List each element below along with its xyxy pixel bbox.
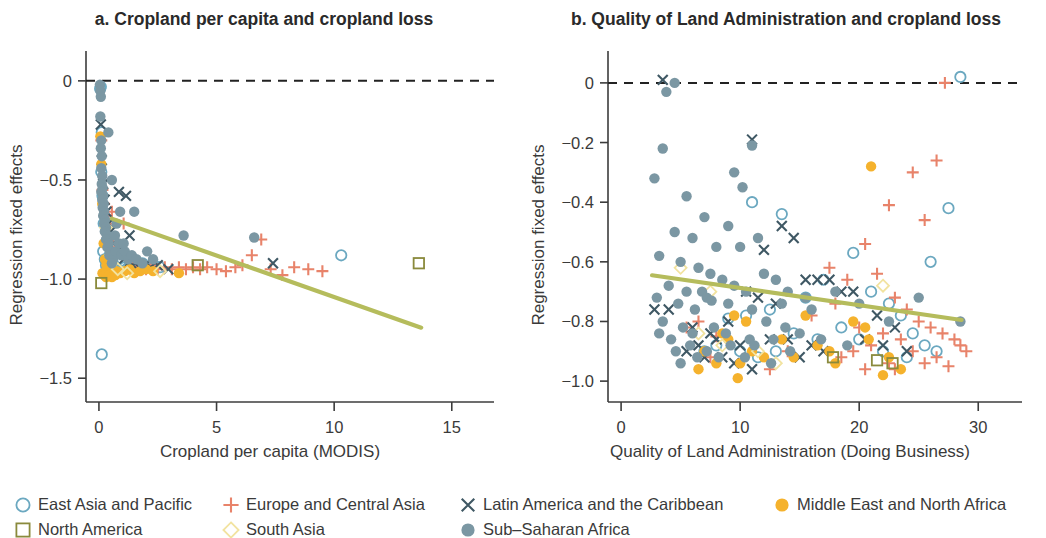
- marker-filled-circle: [95, 111, 105, 121]
- legend-label: East Asia and Pacific: [38, 495, 192, 513]
- marker-filled-circle: [816, 334, 826, 344]
- marker-filled-circle: [759, 269, 769, 279]
- marker-filled-circle: [806, 304, 816, 314]
- marker-filled-circle: [249, 232, 259, 242]
- marker-filled-circle: [848, 316, 858, 326]
- marker-filled-circle: [669, 227, 679, 237]
- marker-filled-circle: [669, 78, 679, 88]
- marker-filled-circle: [741, 316, 751, 326]
- marker-filled-circle: [129, 206, 139, 216]
- marker-filled-circle: [107, 175, 117, 185]
- marker-filled-circle: [685, 340, 695, 350]
- marker-filled-circle: [702, 346, 712, 356]
- y-tick-label: −0.8: [561, 312, 594, 330]
- legend-item-sub-saharan-africa[interactable]: Sub–Saharan Africa: [461, 520, 630, 538]
- marker-filled-circle: [725, 340, 735, 350]
- marker-filled-circle: [878, 370, 888, 380]
- marker-filled-circle: [654, 251, 664, 261]
- y-tick-label: −0.4: [561, 193, 594, 211]
- marker-filled-circle: [714, 352, 724, 362]
- legend-label: Middle East and North Africa: [797, 495, 1007, 513]
- panel-a-x-axis-title: Cropland per capita (MODIS): [160, 442, 380, 461]
- marker-filled-circle: [652, 292, 662, 302]
- legend-label: Latin America and the Caribbean: [483, 495, 723, 513]
- marker-filled-circle: [830, 286, 840, 296]
- y-tick-label: −0.6: [561, 253, 594, 271]
- marker-filled-circle: [461, 523, 474, 536]
- marker-filled-circle: [673, 298, 683, 308]
- marker-filled-circle: [96, 92, 106, 102]
- marker-filled-circle: [687, 233, 697, 243]
- legend-label: North America: [38, 520, 143, 538]
- marker-filled-circle: [681, 286, 691, 296]
- marker-filled-circle: [884, 316, 894, 326]
- marker-filled-circle: [178, 230, 188, 240]
- marker-filled-circle: [771, 275, 781, 285]
- y-tick-label: 0: [585, 74, 594, 92]
- marker-filled-circle: [675, 358, 685, 368]
- marker-filled-circle: [675, 257, 685, 267]
- x-tick-label: 5: [212, 418, 221, 436]
- marker-filled-circle: [693, 263, 703, 273]
- marker-filled-circle: [761, 316, 771, 326]
- marker-filled-circle: [747, 140, 757, 150]
- marker-filled-circle: [729, 167, 739, 177]
- marker-filled-circle: [866, 161, 876, 171]
- x-tick-label: 20: [850, 418, 868, 436]
- marker-filled-circle: [768, 334, 778, 344]
- marker-filled-circle: [780, 322, 790, 332]
- panel-a-y-axis-title: Regression fixed effects: [7, 144, 26, 325]
- marker-filled-circle: [740, 352, 750, 362]
- marker-filled-circle: [678, 322, 688, 332]
- marker-filled-circle: [97, 151, 107, 161]
- y-tick-label: 0: [63, 72, 72, 90]
- marker-filled-circle: [174, 268, 184, 278]
- marker-filled-circle: [699, 212, 709, 222]
- marker-filled-circle: [671, 346, 681, 356]
- marker-filled-circle: [794, 328, 804, 338]
- marker-filled-circle: [749, 340, 759, 350]
- marker-filled-circle: [115, 206, 125, 216]
- panel-b-y-axis-title: Regression fixed effects: [529, 144, 548, 325]
- marker-filled-circle: [777, 298, 787, 308]
- marker-filled-circle: [137, 258, 147, 268]
- y-tick-label: −1.0: [39, 270, 72, 288]
- panel-a-title: a. Cropland per capita and cropland loss: [95, 9, 434, 29]
- panel-b-x-axis-title: Quality of Land Administration (Doing Bu…: [610, 442, 970, 461]
- legend-item-europe-central-asia[interactable]: Europe and Central Asia: [223, 495, 425, 513]
- marker-filled-circle: [735, 242, 745, 252]
- marker-filled-circle: [737, 182, 747, 192]
- marker-filled-circle: [666, 334, 676, 344]
- legend-label: Europe and Central Asia: [246, 495, 426, 513]
- figure-root: a. Cropland per capita and cropland loss…: [0, 0, 1046, 538]
- marker-filled-circle: [721, 328, 731, 338]
- marker-filled-circle: [785, 346, 795, 356]
- y-tick-label: −1.0: [561, 372, 594, 390]
- marker-filled-circle: [711, 242, 721, 252]
- marker-filled-circle: [148, 254, 158, 264]
- marker-filled-circle: [649, 173, 659, 183]
- marker-filled-circle: [733, 373, 743, 383]
- marker-filled-circle: [690, 304, 700, 314]
- x-tick-label: 10: [325, 418, 343, 436]
- marker-filled-circle: [693, 364, 703, 374]
- legend-item-latin-america-caribbean[interactable]: Latin America and the Caribbean: [462, 495, 724, 513]
- marker-filled-circle: [747, 304, 757, 314]
- marker-filled-circle: [723, 298, 733, 308]
- marker-filled-circle: [723, 221, 733, 231]
- legend-item-middle-east-north-africa[interactable]: Middle East and North Africa: [775, 495, 1007, 513]
- marker-filled-circle: [107, 258, 117, 268]
- marker-filled-circle: [654, 328, 664, 338]
- y-tick-label: −0.5: [39, 171, 72, 189]
- marker-filled-circle: [705, 269, 715, 279]
- x-tick-label: 0: [94, 418, 103, 436]
- marker-filled-circle: [692, 352, 702, 362]
- marker-filled-circle: [687, 328, 697, 338]
- marker-filled-circle: [658, 143, 668, 153]
- panel-b-title: b. Quality of Land Administration and cr…: [571, 9, 1001, 29]
- legend-label: Sub–Saharan Africa: [483, 520, 631, 538]
- legend-item-east-asia-pacific[interactable]: East Asia and Pacific: [16, 495, 192, 513]
- marker-filled-circle: [664, 280, 674, 290]
- marker-filled-circle: [914, 292, 924, 302]
- marker-filled-circle: [729, 310, 739, 320]
